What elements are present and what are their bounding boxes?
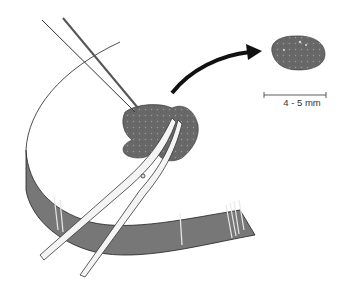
direction-arrow bbox=[172, 44, 262, 93]
illustration bbox=[0, 0, 349, 295]
specimen-top-outline bbox=[26, 42, 120, 150]
excised-sample bbox=[272, 36, 325, 70]
scale-bar-label: 4 - 5 mm bbox=[272, 97, 332, 108]
forceps bbox=[42, 18, 138, 112]
